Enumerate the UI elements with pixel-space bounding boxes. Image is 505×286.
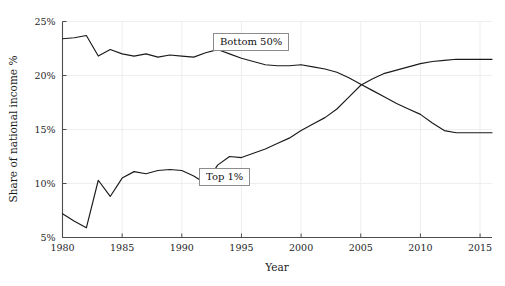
y-axis-title: Share of national income % <box>7 56 19 203</box>
gridlines-group <box>63 22 493 238</box>
chart-figure: 19801985199019952000200520102015 5%10%15… <box>0 0 505 286</box>
y-tick-label: 15% <box>34 124 55 135</box>
y-tick-labels-group: 5%10%15%20%25% <box>34 16 55 243</box>
x-tick-label: 2005 <box>349 242 373 253</box>
y-tick-label: 20% <box>34 70 55 81</box>
legend-label-bottom-50: Bottom 50% <box>213 33 289 51</box>
x-tick-labels-group: 19801985199019952000200520102015 <box>50 242 492 253</box>
x-tick-label: 2015 <box>468 242 492 253</box>
series-lines-group <box>63 36 493 228</box>
legend-label-top-1: Top 1% <box>199 168 250 186</box>
series-line-top-1 <box>63 59 493 227</box>
x-tick-label: 1990 <box>170 242 194 253</box>
x-tickmarks-group <box>63 234 481 238</box>
x-axis-title: Year <box>264 261 289 273</box>
y-tickmarks-group <box>63 22 67 238</box>
y-tick-label: 25% <box>34 16 55 27</box>
x-tick-label: 2000 <box>289 242 313 253</box>
x-tick-label: 1980 <box>50 242 74 253</box>
x-tick-label: 2010 <box>408 242 432 253</box>
x-tick-label: 1985 <box>110 242 134 253</box>
y-tick-label: 10% <box>34 178 55 189</box>
x-tick-label: 1995 <box>229 242 253 253</box>
y-tick-label: 5% <box>40 232 55 243</box>
